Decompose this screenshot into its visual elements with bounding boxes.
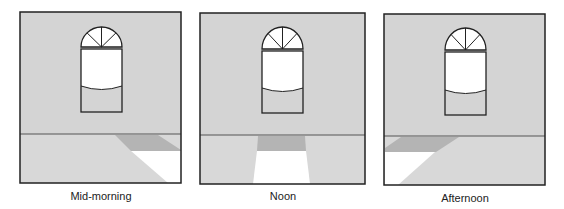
caption-mid-morning: Mid-morning (41, 190, 161, 202)
window-glass (81, 49, 122, 90)
panel-morning (20, 12, 181, 183)
caption-noon: Noon (223, 190, 343, 202)
window-glass (445, 52, 486, 94)
window (445, 28, 486, 115)
sunlight-diagram (0, 0, 564, 209)
panel-noon (200, 13, 365, 184)
panel-afternoon (384, 14, 545, 185)
sunlight-patch (253, 151, 310, 184)
window-glass (262, 51, 303, 92)
caption-afternoon: Afternoon (405, 192, 525, 204)
window (81, 27, 122, 112)
light-band (257, 136, 306, 151)
window (262, 27, 303, 113)
